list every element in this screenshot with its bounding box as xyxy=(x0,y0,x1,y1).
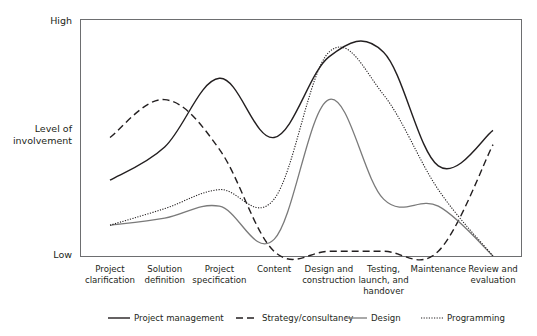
series-lines xyxy=(110,41,493,260)
x-axis-labels: ProjectclarificationSolutiondefinitionPr… xyxy=(85,264,518,296)
y-axis-label-line2: involvement xyxy=(13,135,72,146)
legend-label: Design xyxy=(371,313,401,323)
y-tick-high: High xyxy=(50,15,72,26)
x-tick-label: Solutiondefinition xyxy=(144,264,184,285)
y-axis-label-line1: Level of xyxy=(35,123,73,134)
series-line-project-management xyxy=(110,41,493,180)
x-tick-label: Design andconstruction xyxy=(302,264,355,285)
x-tick-label: Testing,launch, andhandover xyxy=(358,264,408,296)
x-tick-label: Projectspecification xyxy=(192,264,246,285)
y-tick-low: Low xyxy=(53,249,72,260)
series-line-design xyxy=(110,99,493,256)
x-tick-label: Maintenance xyxy=(411,264,466,274)
series-line-programming xyxy=(110,47,493,256)
legend-label: Strategy/consultancy xyxy=(262,313,353,323)
legend-label: Programming xyxy=(447,313,505,323)
x-tick-label: Review andevaluation xyxy=(468,264,518,285)
involvement-line-chart: High Level of involvement Low Projectcla… xyxy=(0,0,537,336)
x-tick-label: Content xyxy=(257,264,292,274)
legend-label: Project management xyxy=(134,313,224,323)
legend: Project managementStrategy/consultancyDe… xyxy=(108,313,505,323)
x-tick-label: Projectclarification xyxy=(85,264,135,285)
